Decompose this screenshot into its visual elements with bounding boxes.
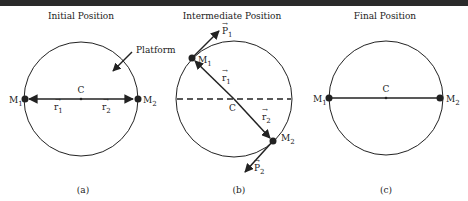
center-label: C	[78, 85, 85, 95]
mass-m1-label: M1	[9, 95, 23, 108]
center-point	[385, 97, 388, 100]
panel-b-caption: (b)	[233, 185, 246, 195]
rotating-platform-diagram: Initial Position C M1 M2 r1 → r2 → Platf…	[0, 0, 468, 201]
mass-m2-dot	[270, 138, 277, 145]
panel-a-caption: (a)	[77, 185, 89, 195]
center-point	[80, 98, 83, 101]
panel-b-title: Intermediate Position	[183, 11, 282, 21]
vector-arrow-accent: →	[222, 20, 228, 28]
center-label: C	[383, 84, 390, 94]
platform-annotation: Platform	[136, 45, 176, 55]
panel-c: Final Position C M1 M2 (c)	[313, 11, 460, 195]
mass-m2-dot	[437, 95, 444, 102]
panel-b: Intermediate Position C M1 M2 r1 → r2 → …	[176, 11, 295, 195]
mass-m2-dot	[135, 96, 142, 103]
panel-c-title: Final Position	[354, 11, 417, 21]
vector-arrow-accent: →	[254, 157, 260, 165]
panel-a-title: Initial Position	[48, 11, 114, 21]
mass-m1-label: M1	[313, 94, 327, 107]
panel-a: Initial Position C M1 M2 r1 → r2 → Platf…	[9, 11, 176, 195]
vector-arrow-accent: →	[55, 96, 61, 104]
mass-m2-label: M2	[446, 94, 460, 107]
mass-m2-label: M2	[281, 133, 295, 146]
mass-m1-dot	[189, 55, 196, 62]
vector-arrow-accent: →	[103, 96, 109, 104]
mass-m2-label: M2	[143, 95, 157, 108]
panel-c-caption: (c)	[380, 185, 392, 195]
vector-arrow-accent: →	[222, 67, 228, 75]
vector-arrow-accent: →	[262, 106, 268, 114]
center-label: C	[229, 103, 236, 113]
